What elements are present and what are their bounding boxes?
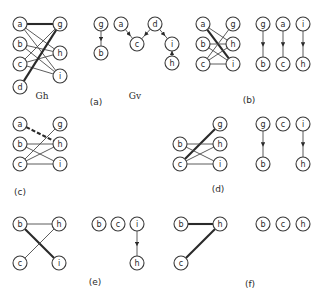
node-e-i: i: [52, 256, 66, 270]
node-label: a: [119, 20, 124, 29]
node-label: g: [217, 120, 222, 129]
node-e-c: c: [13, 256, 27, 270]
node-label: c: [18, 60, 22, 69]
node-d-g: g: [256, 117, 270, 131]
node-e-h: h: [130, 256, 144, 270]
edge-f-1: [186, 229, 215, 258]
node-label: i: [232, 60, 234, 69]
node-b-i: i: [296, 17, 310, 31]
node-label: d: [17, 83, 22, 92]
panel-caption-e: (e): [89, 277, 102, 287]
node-a-gv-a: a: [114, 17, 128, 31]
node-label: i: [219, 160, 221, 169]
node-f-c: c: [174, 256, 188, 270]
node-label: a: [18, 20, 23, 29]
node-label: h: [217, 220, 222, 229]
node-label: c: [116, 220, 120, 229]
node-f-c: c: [276, 217, 290, 231]
arrow-head-icon: [129, 34, 130, 35]
node-label: i: [302, 20, 304, 29]
node-a-gh-h: h: [53, 46, 67, 60]
node-a-gh-c: c: [13, 57, 27, 71]
node-b-g: g: [256, 17, 270, 31]
node-b-g: g: [226, 17, 240, 31]
node-label: c: [281, 60, 285, 69]
node-c-a: a: [13, 117, 27, 131]
node-e-b: b: [13, 217, 27, 231]
node-label: i: [136, 220, 138, 229]
node-label: h: [230, 40, 235, 49]
node-label: g: [57, 120, 62, 129]
node-a-gh-d: d: [13, 80, 27, 94]
node-a-gh-i: i: [53, 69, 67, 83]
node-label: i: [302, 120, 304, 129]
node-b-a: a: [276, 17, 290, 31]
node-c-g: g: [53, 117, 67, 131]
node-f-b: b: [174, 217, 188, 231]
node-label: g: [230, 20, 235, 29]
node-label: g: [57, 20, 62, 29]
node-e-b: b: [92, 217, 106, 231]
node-label: i: [59, 72, 61, 81]
node-a-gv-g: g: [94, 17, 108, 31]
node-label: b: [17, 220, 22, 229]
node-f-b: b: [256, 217, 270, 231]
node-c-c: c: [13, 157, 27, 171]
node-f-h: h: [296, 217, 310, 231]
node-label: b: [260, 60, 265, 69]
node-label: b: [17, 140, 22, 149]
edge-a-gh-4: [25, 48, 54, 71]
node-label: i: [171, 40, 173, 49]
node-label: c: [281, 120, 285, 129]
node-c-b: b: [13, 137, 27, 151]
node-label: c: [281, 220, 285, 229]
node-label: c: [135, 40, 139, 49]
node-label: g: [260, 20, 265, 29]
node-label: b: [200, 40, 205, 49]
node-label: b: [98, 49, 103, 58]
node-d-c: c: [173, 157, 187, 171]
node-e-c: c: [111, 217, 125, 231]
node-d-c: c: [276, 117, 290, 131]
node-label: i: [59, 160, 61, 169]
node-label: b: [17, 40, 22, 49]
node-a-gv-i: i: [165, 37, 179, 51]
node-a-gv-b: b: [94, 46, 108, 60]
node-label: h: [300, 220, 305, 229]
node-label: h: [217, 140, 222, 149]
panel-caption-d: (d): [212, 184, 225, 194]
node-b-a: a: [196, 17, 210, 31]
node-label: g: [98, 20, 103, 29]
arrow-head-icon: [163, 34, 164, 35]
node-b-b: b: [256, 57, 270, 71]
node-label: h: [134, 259, 139, 268]
node-f-h: h: [213, 217, 227, 231]
node-label: d: [152, 20, 157, 29]
node-label: b: [178, 220, 183, 229]
panel-caption-c: (c): [14, 187, 26, 197]
node-c-h: h: [53, 137, 67, 151]
node-b-h: h: [226, 37, 240, 51]
node-a-gv-c: c: [130, 37, 144, 51]
node-label: b: [177, 140, 182, 149]
node-d-i: i: [213, 157, 227, 171]
panel-caption-f: (f): [245, 279, 255, 289]
node-label: h: [57, 49, 62, 58]
node-d-b: b: [256, 157, 270, 171]
node-e-h: h: [52, 217, 66, 231]
node-b-i: i: [226, 57, 240, 71]
node-a-gh-g: g: [53, 17, 67, 31]
node-label: c: [178, 160, 182, 169]
node-label: a: [18, 120, 23, 129]
node-label: c: [18, 259, 22, 268]
node-d-g: g: [213, 117, 227, 131]
node-label: a: [201, 20, 206, 29]
node-d-h: h: [296, 157, 310, 171]
node-b-c: c: [196, 57, 210, 71]
panel-caption-a-gv: (a): [90, 97, 103, 107]
node-label: b: [260, 220, 265, 229]
node-d-i: i: [296, 117, 310, 131]
node-label: h: [300, 160, 305, 169]
node-label: c: [179, 259, 183, 268]
node-label: h: [300, 60, 305, 69]
